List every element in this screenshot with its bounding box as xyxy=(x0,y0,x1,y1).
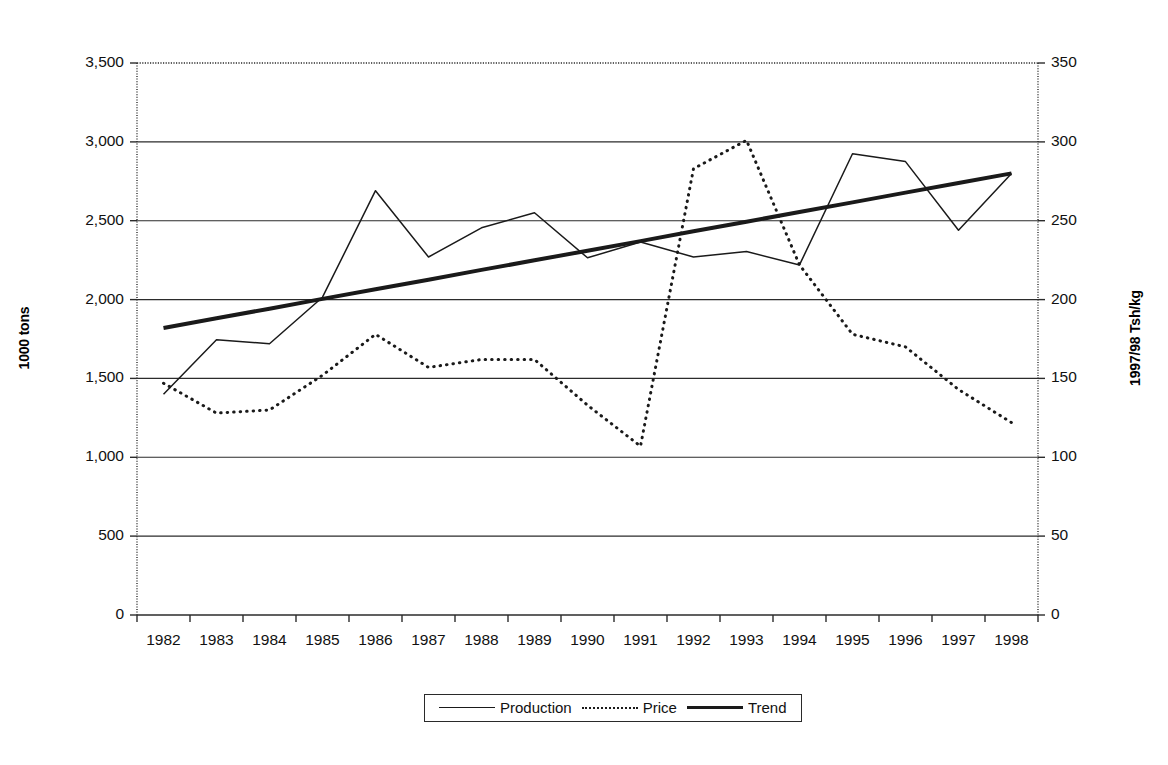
series-line-trend xyxy=(164,173,1012,328)
x-axis-tick-label: 1991 xyxy=(611,631,671,649)
legend-item-price: Price xyxy=(577,699,682,716)
y-axis-right-tick-label: 200 xyxy=(1051,290,1121,308)
y-axis-left-tick-label: 1,000 xyxy=(54,447,124,465)
dotted-line-swatch xyxy=(582,703,638,713)
y-axis-left-tick-label: 2,500 xyxy=(54,211,124,229)
y-axis-right-tick-label: 0 xyxy=(1051,605,1121,623)
y-axis-left-tick-label: 3,000 xyxy=(54,132,124,150)
chart-plot-svg xyxy=(0,0,1168,765)
y-axis-left-tick-label: 0 xyxy=(54,605,124,623)
chart-legend: ProductionPriceTrend xyxy=(424,694,802,722)
y-axis-right-title: 1997/98 Tsh/kg xyxy=(1127,258,1143,418)
x-axis-tick-label: 1992 xyxy=(664,631,724,649)
gridlines-group xyxy=(137,142,1038,536)
y-axis-right-tick-label: 150 xyxy=(1051,368,1121,386)
data-series-group xyxy=(164,140,1012,446)
y-axis-right-tick-label: 50 xyxy=(1051,526,1121,544)
chart-figure: 1000 tons 1997/98 Tsh/kg 05001,0001,5002… xyxy=(0,0,1168,765)
y-axis-left-tick-label: 3,500 xyxy=(54,53,124,71)
x-axis-tick-label: 1985 xyxy=(293,631,353,649)
x-axis-tick-label: 1984 xyxy=(240,631,300,649)
x-axis-tick-label: 1998 xyxy=(982,631,1042,649)
axis-ticks xyxy=(130,63,1045,622)
x-axis-tick-label: 1987 xyxy=(399,631,459,649)
x-axis-tick-label: 1982 xyxy=(134,631,194,649)
solid-thick-line-swatch xyxy=(687,703,743,713)
y-axis-right-tick-label: 350 xyxy=(1051,53,1121,71)
x-axis-tick-label: 1989 xyxy=(505,631,565,649)
y-axis-right-tick-label: 300 xyxy=(1051,132,1121,150)
y-axis-left-tick-label: 500 xyxy=(54,526,124,544)
y-axis-left-tick-label: 2,000 xyxy=(54,290,124,308)
solid-thin-line-swatch xyxy=(439,703,495,713)
y-axis-right-tick-label: 100 xyxy=(1051,447,1121,465)
y-axis-left-tick-label: 1,500 xyxy=(54,368,124,386)
plot-frame xyxy=(137,63,1038,615)
y-axis-right-tick-label: 250 xyxy=(1051,211,1121,229)
series-line-price xyxy=(164,140,1012,446)
x-axis-tick-label: 1983 xyxy=(187,631,247,649)
series-line-production xyxy=(164,154,1012,395)
x-axis-tick-label: 1988 xyxy=(452,631,512,649)
legend-label: Production xyxy=(500,699,572,716)
x-axis-tick-label: 1990 xyxy=(558,631,618,649)
x-axis-tick-label: 1997 xyxy=(929,631,989,649)
y-axis-left-title: 1000 tons xyxy=(16,278,32,398)
x-axis-tick-label: 1994 xyxy=(770,631,830,649)
x-axis-tick-label: 1996 xyxy=(876,631,936,649)
legend-item-trend: Trend xyxy=(682,699,792,716)
x-axis-tick-label: 1993 xyxy=(717,631,777,649)
x-axis-tick-label: 1995 xyxy=(823,631,883,649)
legend-label: Trend xyxy=(748,699,787,716)
legend-label: Price xyxy=(643,699,677,716)
x-axis-tick-label: 1986 xyxy=(346,631,406,649)
legend-item-production: Production xyxy=(434,699,577,716)
